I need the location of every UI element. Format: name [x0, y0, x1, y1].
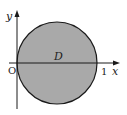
region-label: D — [53, 50, 63, 63]
x-tick-label-1: 1 — [101, 66, 107, 77]
origin-label: O — [8, 65, 16, 76]
y-axis-label: y — [5, 10, 13, 23]
x-axis-label: x — [112, 65, 119, 78]
y-axis-arrow-icon — [15, 10, 20, 17]
region-diagram: y O D 1 x — [0, 0, 127, 115]
